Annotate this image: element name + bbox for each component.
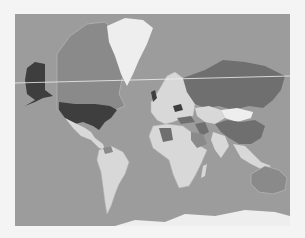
- region-south-america[interactable]: [97, 146, 129, 214]
- region-alaska[interactable]: [25, 62, 53, 106]
- region-antarctica[interactable]: [115, 210, 290, 226]
- map-canvas: [15, 14, 290, 226]
- region-mongolia[interactable]: [221, 108, 253, 122]
- region-australia[interactable]: [251, 166, 287, 194]
- region-russia[interactable]: [183, 60, 285, 110]
- world-map[interactable]: [15, 14, 290, 226]
- region-united-states[interactable]: [59, 102, 117, 130]
- region-madagascar[interactable]: [201, 164, 207, 178]
- region-kazakhstan[interactable]: [195, 106, 225, 124]
